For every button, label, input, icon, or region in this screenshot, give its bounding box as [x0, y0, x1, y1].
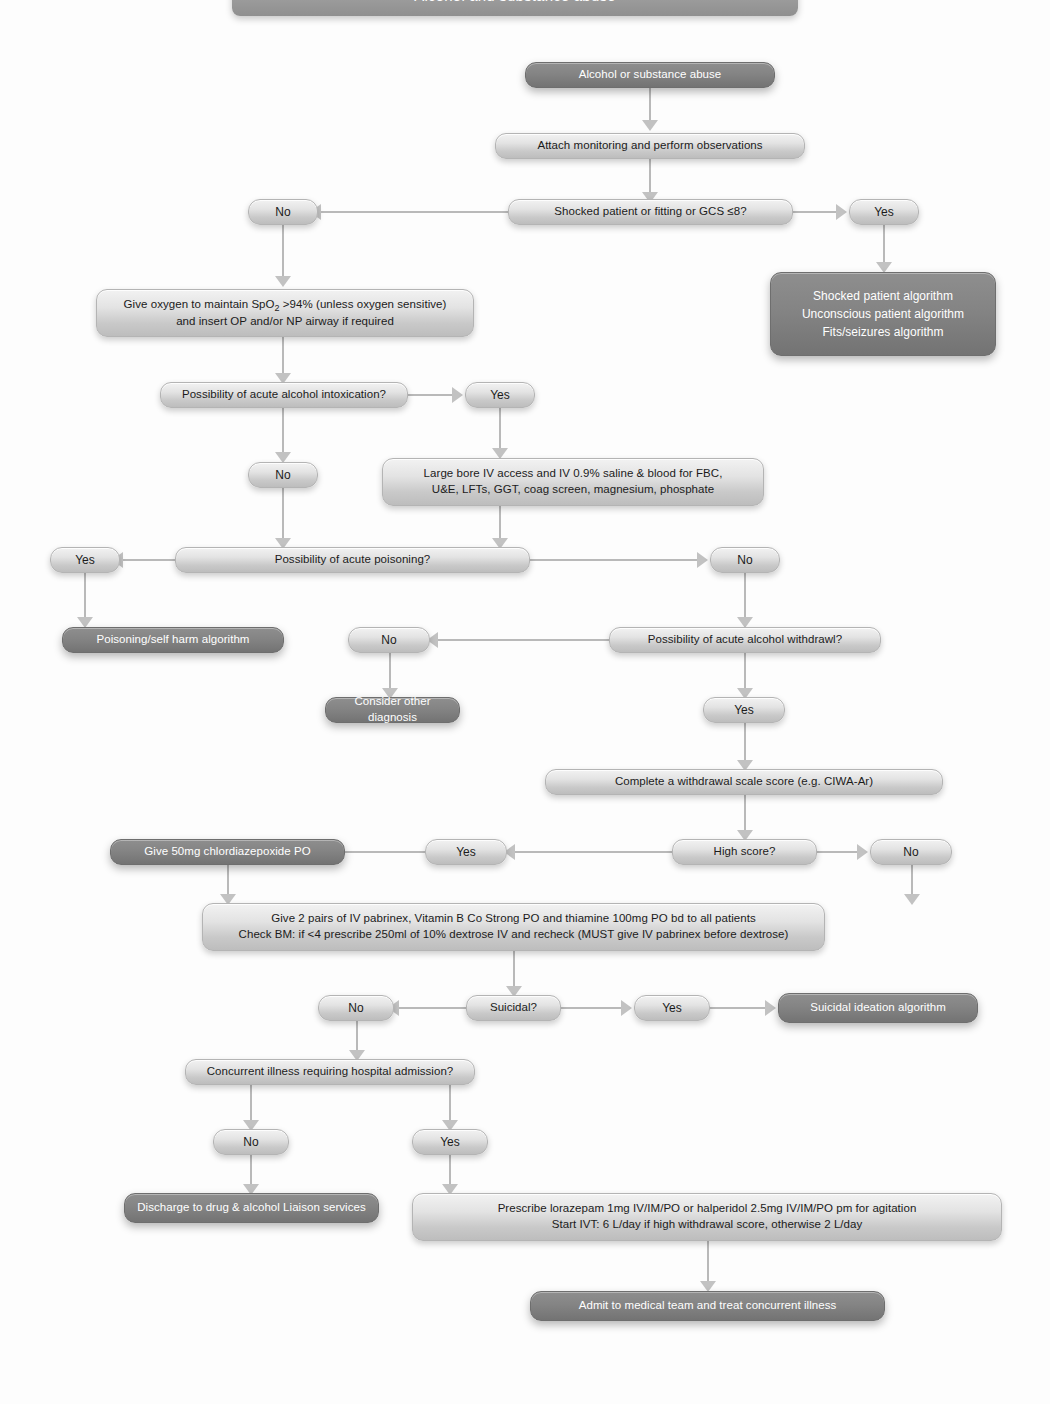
node-give-oxygen-line2: and insert OP and/or NP airway if requir…: [176, 314, 394, 330]
arrow-highscoreno-to-pabrinex: [904, 894, 920, 905]
node-intoxication-no-label: No: [275, 467, 290, 483]
node-shocked-no-label: No: [275, 204, 290, 220]
node-high-score-question[interactable]: High score?: [672, 839, 817, 865]
arrow-no-to-oxygen: [275, 276, 291, 287]
node-withdrawal-question[interactable]: Possibility of acute alcohol withdrawl?: [609, 627, 881, 653]
node-prescribe[interactable]: Prescribe lorazepam 1mg IV/IM/PO or halp…: [412, 1193, 1002, 1241]
node-suicidal-question[interactable]: Suicidal?: [466, 995, 561, 1021]
arrow-poisoning-to-no: [697, 552, 708, 568]
node-intoxication-yes-label: Yes: [490, 387, 510, 403]
connector-suicidal-to-yes: [561, 1007, 629, 1009]
node-poisoning-question-label: Possibility of acute poisoning?: [275, 552, 431, 568]
node-discharge[interactable]: Discharge to drug & alcohol Liaison serv…: [124, 1193, 379, 1223]
page-header-bar: Alcohol and substance abuse: [232, 0, 798, 16]
page-title: Alcohol and substance abuse: [414, 0, 615, 4]
node-suicidal-yes[interactable]: Yes: [634, 995, 710, 1021]
connector-yes-to-chlordiazepoxide: [340, 851, 425, 853]
node-high-score-question-label: High score?: [714, 844, 776, 860]
node-chlordiazepoxide[interactable]: Give 50mg chlordiazepoxide PO: [110, 839, 345, 865]
node-prescribe-line2: Start IVT: 6 L/day if high withdrawal sc…: [552, 1217, 863, 1233]
node-consider-other-diagnosis[interactable]: Consider other diagnosis: [325, 697, 460, 723]
node-iv-access-line1: Large bore IV access and IV 0.9% saline …: [424, 466, 723, 482]
node-suicidal-no[interactable]: No: [318, 995, 394, 1021]
node-withdrawal-yes-label: Yes: [734, 702, 754, 718]
node-admit-label: Admit to medical team and treat concurre…: [579, 1298, 837, 1314]
node-suicidal-ideation-algorithm-label: Suicidal ideation algorithm: [810, 1000, 946, 1016]
node-intoxication-question-label: Possibility of acute alcohol intoxicatio…: [182, 387, 386, 403]
node-pabrinex-line1: Give 2 pairs of IV pabrinex, Vitamin B C…: [271, 911, 755, 927]
node-start-label: Alcohol or substance abuse: [579, 67, 722, 83]
node-chlordiazepoxide-label: Give 50mg chlordiazepoxide PO: [144, 844, 310, 860]
node-withdrawal-question-label: Possibility of acute alcohol withdrawl?: [648, 632, 842, 648]
node-give-oxygen-line1: Give oxygen to maintain SpO2 >94% (unles…: [124, 297, 447, 314]
node-high-score-yes-label: Yes: [456, 844, 476, 860]
node-shocked-yes-label: Yes: [874, 204, 894, 220]
node-attach-monitoring[interactable]: Attach monitoring and perform observatio…: [495, 133, 805, 159]
connector-start-to-monitoring: [649, 88, 651, 124]
connector-poisoning-to-no: [530, 559, 705, 561]
connector-withdrawal-to-no: [435, 639, 609, 641]
algorithm-line-unconscious: Unconscious patient algorithm: [802, 305, 964, 323]
node-iv-access-line2: U&E, LFTs, GGT, coag screen, magnesium, …: [432, 482, 714, 498]
node-prescribe-line1: Prescribe lorazepam 1mg IV/IM/PO or halp…: [498, 1201, 917, 1217]
node-shocked-question-label: Shocked patient or fitting or GCS ≤8?: [554, 204, 746, 220]
node-high-score-yes[interactable]: Yes: [425, 839, 507, 865]
connector-no-to-oxygen: [282, 225, 284, 283]
node-suicidal-question-label: Suicidal?: [490, 1000, 537, 1016]
node-intoxication-no[interactable]: No: [248, 462, 318, 488]
node-intoxication-question[interactable]: Possibility of acute alcohol intoxicatio…: [160, 382, 408, 408]
node-withdrawal-no[interactable]: No: [348, 627, 430, 653]
arrow-start-to-monitoring: [642, 120, 658, 131]
node-poisoning-no[interactable]: No: [710, 547, 780, 573]
connector-yes-to-suicidal-algorithm: [710, 1007, 773, 1009]
node-poisoning-yes[interactable]: Yes: [50, 547, 120, 573]
algorithm-line-shocked: Shocked patient algorithm: [813, 287, 953, 305]
node-concurrent-yes-label: Yes: [440, 1134, 460, 1150]
node-concurrent-no[interactable]: No: [213, 1129, 289, 1155]
node-pabrinex-line2: Check BM: if <4 prescribe 250ml of 10% d…: [239, 927, 789, 943]
node-start[interactable]: Alcohol or substance abuse: [525, 62, 775, 88]
arrow-shocked-to-yes: [836, 204, 847, 220]
node-poisoning-algorithm-label: Poisoning/self harm algorithm: [97, 632, 250, 648]
connector-highscore-to-yes: [512, 851, 672, 853]
node-discharge-label: Discharge to drug & alcohol Liaison serv…: [137, 1200, 365, 1216]
node-pabrinex[interactable]: Give 2 pairs of IV pabrinex, Vitamin B C…: [202, 903, 825, 951]
node-high-score-no[interactable]: No: [870, 839, 952, 865]
connector-suicidal-to-no: [396, 1007, 466, 1009]
node-shocked-question[interactable]: Shocked patient or fitting or GCS ≤8?: [508, 199, 793, 225]
flowchart-canvas: Alcohol and substance abuse Alcohol or s…: [0, 0, 1050, 1404]
arrow-yes-to-suicidal-algorithm: [765, 1000, 776, 1016]
node-concurrent-no-label: No: [243, 1134, 258, 1150]
connector-poisoning-to-yes: [120, 559, 175, 561]
node-suicidal-no-label: No: [348, 1000, 363, 1016]
node-attach-monitoring-label: Attach monitoring and perform observatio…: [537, 138, 762, 154]
arrow-highscore-to-no: [857, 844, 868, 860]
node-poisoning-algorithm[interactable]: Poisoning/self harm algorithm: [62, 627, 284, 653]
node-suicidal-ideation-algorithm[interactable]: Suicidal ideation algorithm: [778, 993, 978, 1023]
node-withdrawal-yes[interactable]: Yes: [703, 697, 785, 723]
node-ciwa-score-label: Complete a withdrawal scale score (e.g. …: [615, 774, 873, 790]
node-withdrawal-no-label: No: [381, 632, 396, 648]
algorithm-line-fits: Fits/seizures algorithm: [822, 323, 943, 341]
node-poisoning-yes-label: Yes: [75, 552, 95, 568]
arrow-intox-to-yes: [452, 387, 463, 403]
node-high-score-no-label: No: [903, 844, 918, 860]
node-ciwa-score[interactable]: Complete a withdrawal scale score (e.g. …: [545, 769, 943, 795]
node-shocked-yes[interactable]: Yes: [849, 199, 919, 225]
node-intoxication-yes[interactable]: Yes: [465, 382, 535, 408]
node-admit[interactable]: Admit to medical team and treat concurre…: [530, 1291, 885, 1321]
arrow-suicidal-to-yes: [621, 1000, 632, 1016]
node-shocked-algorithms[interactable]: Shocked patient algorithm Unconscious pa…: [770, 272, 996, 356]
node-concurrent-illness-question-label: Concurrent illness requiring hospital ad…: [207, 1064, 454, 1080]
connector-shocked-to-no: [318, 211, 508, 213]
node-concurrent-illness-question[interactable]: Concurrent illness requiring hospital ad…: [185, 1059, 475, 1085]
node-shocked-no[interactable]: No: [248, 199, 318, 225]
node-poisoning-no-label: No: [737, 552, 752, 568]
node-concurrent-yes[interactable]: Yes: [412, 1129, 488, 1155]
node-consider-other-diagnosis-label: Consider other diagnosis: [334, 694, 451, 725]
node-poisoning-question[interactable]: Possibility of acute poisoning?: [175, 547, 530, 573]
node-give-oxygen[interactable]: Give oxygen to maintain SpO2 >94% (unles…: [96, 289, 474, 337]
node-suicidal-yes-label: Yes: [662, 1000, 682, 1016]
node-iv-access[interactable]: Large bore IV access and IV 0.9% saline …: [382, 458, 764, 506]
